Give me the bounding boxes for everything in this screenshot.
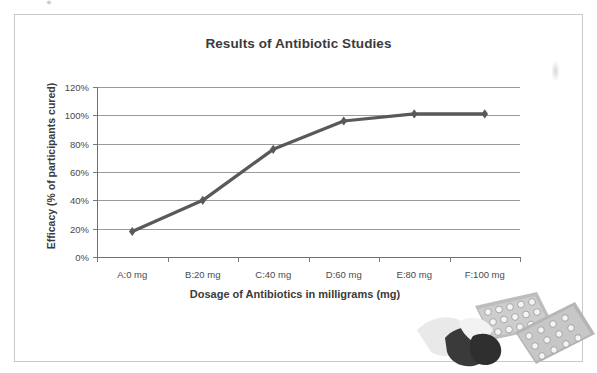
series-markers-group (129, 109, 488, 236)
data-point-marker (129, 227, 136, 236)
plot-area: 0%20%40%60%80%100%120% A:0 mgB:20 mgC:40… (97, 87, 520, 257)
y-tick-label: 80% (70, 138, 89, 149)
y-tick-label: 100% (65, 110, 89, 121)
y-tick-label: 20% (70, 223, 89, 234)
pills-and-blister-packs-icon (415, 278, 595, 370)
series-line (132, 114, 485, 232)
scan-artifact-icon (46, 0, 52, 5)
x-tick-mark (520, 257, 521, 262)
scan-artifact-icon (551, 60, 560, 82)
capsule-icon (417, 317, 501, 366)
data-point-marker (340, 116, 347, 125)
y-axis-title: Efficacy (% of participants cured) (45, 71, 57, 261)
y-tick-label: 0% (75, 252, 89, 263)
y-tick-label: 40% (70, 195, 89, 206)
y-tick-label: 120% (65, 82, 89, 93)
data-point-marker (411, 109, 418, 118)
x-tick-label: A:0 mg (117, 269, 147, 280)
x-tick-label: C:40 mg (255, 269, 291, 280)
data-point-marker (481, 109, 488, 118)
series-efficacy (97, 87, 520, 258)
chart-title: Results of Antibiotic Studies (0, 36, 597, 51)
y-tick-label: 60% (70, 167, 89, 178)
x-tick-label: B:20 mg (185, 269, 220, 280)
x-tick-label: D:60 mg (326, 269, 362, 280)
